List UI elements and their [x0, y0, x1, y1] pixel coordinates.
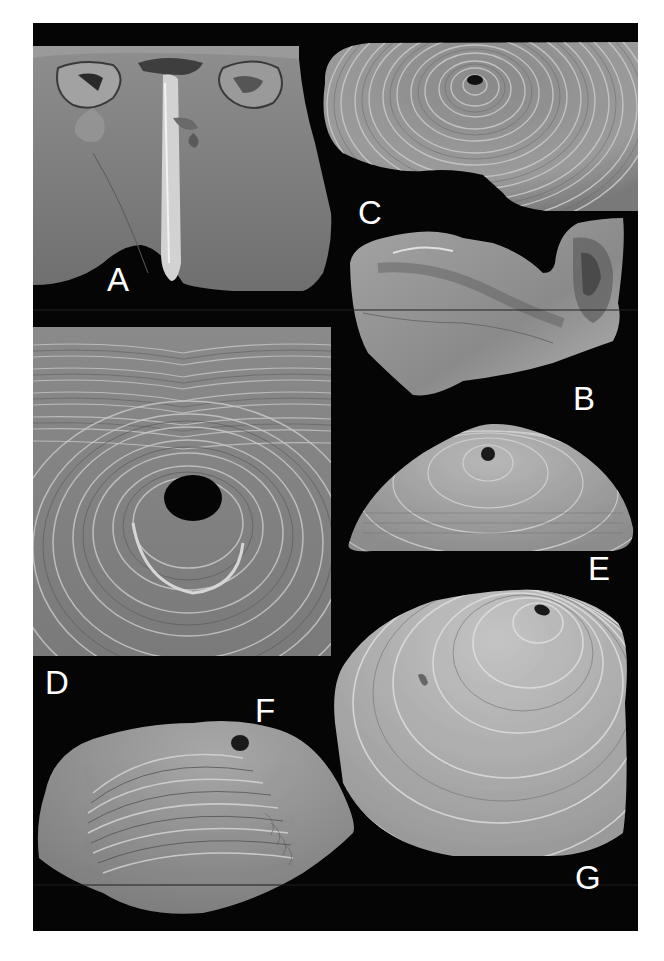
- panel-label-f: F: [255, 694, 275, 727]
- panel-label-d: D: [45, 666, 69, 699]
- panel-e-foramen: [481, 447, 495, 461]
- panel-b-specimen: [350, 218, 624, 395]
- panel-c-foramen: [467, 75, 483, 85]
- panel-label-g: G: [575, 861, 601, 894]
- figure-plate: A C B D E F G: [33, 23, 638, 931]
- panel-f-specimen: [33, 713, 363, 923]
- panel-label-e: E: [588, 552, 610, 585]
- specimen-images: [33, 23, 638, 931]
- panel-label-a: A: [107, 263, 129, 296]
- panel-a-specimen: [33, 46, 331, 291]
- panel-d-foramen: [164, 475, 222, 521]
- panel-f-foramen: [231, 735, 249, 751]
- panel-c-specimen: [299, 23, 638, 233]
- panel-g-specimen: [293, 583, 638, 903]
- panel-label-b: B: [573, 382, 595, 415]
- panel-label-c: C: [358, 196, 382, 229]
- panel-d-specimen: [33, 327, 366, 705]
